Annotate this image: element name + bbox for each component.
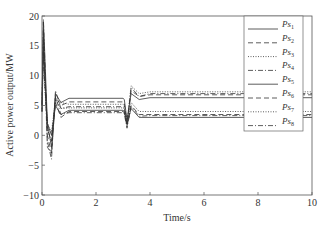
y-tick-label: 10 <box>29 70 39 81</box>
y-axis-label: Active power output/MW <box>4 53 15 157</box>
y-tick-label: 5 <box>34 100 39 111</box>
x-tick-label: 4 <box>148 197 153 208</box>
line-chart: 0246810 −10−505101520 Time/s Active powe… <box>0 0 326 231</box>
x-axis-ticks: 0246810 <box>40 192 318 208</box>
y-tick-label: 20 <box>29 11 39 22</box>
x-tick-label: 6 <box>202 197 207 208</box>
legend: Ps1Ps2Ps3Ps4Ps5Ps6Ps7Ps8 <box>244 16 303 131</box>
x-tick-label: 0 <box>40 197 45 208</box>
x-axis-label: Time/s <box>163 212 191 223</box>
y-tick-label: 15 <box>29 40 39 51</box>
x-tick-label: 8 <box>256 197 261 208</box>
y-tick-label: 0 <box>34 130 39 141</box>
y-tick-label: −5 <box>28 160 39 171</box>
x-tick-label: 2 <box>94 197 99 208</box>
x-tick-label: 10 <box>307 197 317 208</box>
y-tick-label: −10 <box>23 190 39 201</box>
legend-box <box>244 16 303 131</box>
